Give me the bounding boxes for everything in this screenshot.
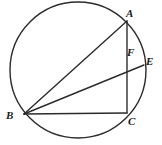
segment-BC [24, 113, 127, 114]
segment-BA [24, 21, 127, 114]
segment-BE [24, 65, 144, 114]
point-label-e: E [146, 56, 153, 67]
point-label-b: B [6, 110, 13, 121]
geometry-canvas [0, 0, 162, 145]
geometry-figure: A B C E F [0, 0, 162, 145]
point-label-c: C [128, 116, 135, 127]
point-label-a: A [126, 8, 133, 19]
point-label-f: F [127, 47, 134, 58]
